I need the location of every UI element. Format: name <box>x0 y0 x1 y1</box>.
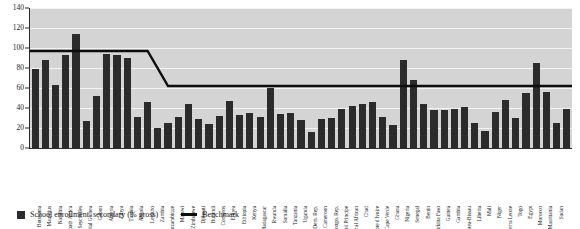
y-tick-label: 0 <box>0 144 24 152</box>
y-tick-label: 100 <box>0 44 24 52</box>
x-tick-label: Sudan <box>559 206 564 219</box>
benchmark-line <box>30 8 572 148</box>
x-tick-label: Cameroon <box>323 206 328 228</box>
x-tick-label: Egypt <box>528 206 533 219</box>
x-axis-labels: BotswanaMauritiusNamibiaSouth AfricaSeyc… <box>30 150 572 208</box>
x-tick-label: Uganda <box>303 206 308 222</box>
x-tick-label: Cote d'Ivoire <box>375 206 380 229</box>
x-tick-label: Burkina Faso <box>436 206 441 229</box>
x-tick-label: Madagascar <box>262 206 267 229</box>
x-tick-label: Ethiopia <box>242 206 247 224</box>
x-tick-label: Sierra Leone <box>508 206 513 229</box>
x-tick-label: Tanzania <box>293 206 298 225</box>
x-tick-label: Guinea <box>446 206 451 221</box>
x-tick-label: Chad <box>364 206 369 217</box>
chart-legend: School enrollment, secondary (% gross) B… <box>17 210 239 219</box>
x-tick-label: Central African <box>354 206 359 229</box>
legend-entry-bars: School enrollment, secondary (% gross) <box>17 210 158 219</box>
x-tick-label: Togo <box>518 206 523 217</box>
y-axis-ticks: 020406080100120140 <box>0 0 30 160</box>
y-tick-label: 120 <box>0 24 24 32</box>
line-swatch-icon <box>181 213 197 216</box>
x-tick-label: Morocco <box>538 206 543 225</box>
chart-container: 020406080100120140 BotswanaMauritiusNami… <box>0 0 580 229</box>
x-tick-label: Somalia <box>283 206 288 223</box>
x-tick-label: Senegal <box>415 206 420 223</box>
x-tick-label: Niger <box>497 206 502 218</box>
bar-swatch-icon <box>17 211 25 219</box>
benchmark-polyline <box>30 51 572 86</box>
x-tick-label: Nigeria <box>405 206 410 222</box>
x-tick-label: Cape Verde <box>385 206 390 229</box>
x-tick-label: Guinea-Bissau <box>467 206 472 229</box>
x-tick-label: Congo, Dem. Rep. <box>313 206 318 229</box>
x-tick-label: Congo, Rep. <box>334 206 339 229</box>
x-axis-line <box>29 148 572 149</box>
y-tick-label: 80 <box>0 64 24 72</box>
x-tick-label: Gambia <box>456 206 461 223</box>
legend-label-enrollment: School enrollment, secondary (% gross) <box>30 210 158 219</box>
legend-label-benchmark: Benchmark <box>202 210 239 219</box>
legend-entry-benchmark: Benchmark <box>181 210 239 219</box>
x-tick-label: Kenya <box>252 206 257 220</box>
x-tick-label: Liberia <box>477 206 482 221</box>
x-tick-label: Sao Tome and Principe <box>344 206 349 229</box>
x-tick-label: Ghana <box>395 206 400 220</box>
x-tick-label: Rwanda <box>272 206 277 223</box>
y-tick-label: 60 <box>0 84 24 92</box>
y-tick-label: 20 <box>0 124 24 132</box>
x-tick-label: Mali <box>487 206 492 216</box>
y-tick-label: 140 <box>0 4 24 12</box>
y-tick-label: 40 <box>0 104 24 112</box>
x-tick-label: Mauritania <box>548 206 553 229</box>
x-tick-label: Benin <box>426 206 431 219</box>
